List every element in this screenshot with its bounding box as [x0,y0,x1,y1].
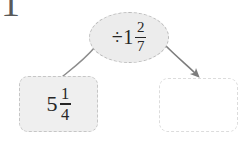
operator-fraction: 2 7 [135,20,146,55]
input-whole-number: 5 [47,93,59,115]
connector-operator-to-input [63,47,95,76]
operator-symbol: ÷ [112,27,123,47]
operator-node: ÷1 2 7 [89,12,169,63]
output-answer-value[interactable] [160,79,237,131]
input-fraction-denominator: 4 [60,106,70,123]
operator-whole-number: 1 [123,27,134,47]
output-answer-box[interactable] [159,78,238,132]
operator-fraction-denominator: 7 [136,39,146,55]
input-expression: 5 1 4 [47,85,71,123]
connector-operator-to-output [166,46,196,74]
operator-expression: ÷1 2 7 [112,20,146,55]
operator-fraction-numerator: 2 [136,20,146,36]
input-fraction: 1 4 [60,85,71,123]
input-fraction-numerator: 1 [60,85,70,102]
input-value-box: 5 1 4 [19,76,98,132]
function-machine-diagram: 1 ÷1 2 7 5 1 4 [0,0,246,144]
